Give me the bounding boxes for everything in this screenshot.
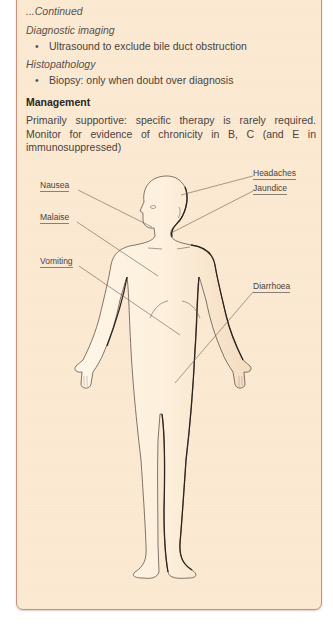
bullet-ultrasound: Ultrasound to exclude bile duct obstruct… — [49, 39, 247, 53]
label-diarrhoea: Diarrhoea — [253, 281, 290, 293]
bullet-biopsy: Biopsy: only when doubt over diagnosis — [49, 73, 233, 87]
management-heading: Management — [26, 95, 90, 109]
leader-line-headaches — [181, 176, 253, 195]
body-figure: Headaches Jaundice Nausea Malaise Vomiti… — [17, 150, 321, 610]
bullet-dot: • — [35, 39, 39, 53]
section-heading-histopathology: Histopathology — [26, 57, 95, 71]
section-heading-diagnostic-imaging: Diagnostic imaging — [26, 23, 115, 37]
body-outline — [75, 176, 251, 578]
continued-label: ...Continued — [26, 4, 83, 18]
bullet-dot: • — [35, 73, 39, 87]
label-headaches: Headaches — [253, 168, 296, 180]
label-jaundice: Jaundice — [253, 183, 287, 195]
management-text: Primarily supportive: specific therapy i… — [26, 114, 316, 155]
label-nausea: Nausea — [40, 180, 69, 192]
label-vomiting: Vomiting — [40, 256, 73, 268]
label-malaise: Malaise — [40, 212, 69, 224]
